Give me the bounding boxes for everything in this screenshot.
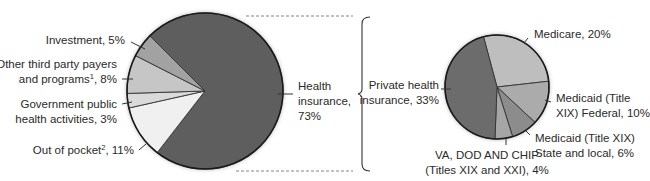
label-medicare: Medicare, 20% <box>534 27 611 42</box>
label-private-line1: Private health <box>360 78 439 93</box>
label-medicaid-state-line1: Medicaid (Title XIX) <box>535 131 635 146</box>
label-oop-text: Out of pocket <box>33 144 101 156</box>
label-other-value: , 8% <box>94 73 117 85</box>
label-out-of-pocket: Out of pocket2, 11% <box>33 143 134 158</box>
label-va-line1: VA, DOD AND CHIP <box>417 148 557 163</box>
label-other-third-party: Other third party payers and programs1, … <box>0 57 117 87</box>
label-oop-value: , 11% <box>105 144 134 156</box>
label-gov-line1: Government public <box>15 97 117 112</box>
label-health-insurance: Health insurance, 73% <box>298 79 351 124</box>
label-health-line2: insurance, <box>298 94 351 109</box>
label-health-line1: Health <box>298 79 351 94</box>
label-private-health-insurance: Private health insurance, 33% <box>360 78 439 108</box>
label-va-line2: (Titles XIX and XXI), 4% <box>417 163 557 178</box>
label-medicaid-fed-line2: XIX) Federal, 10% <box>556 106 650 121</box>
label-health-line3: 73% <box>298 109 351 124</box>
main-pie-chart <box>127 13 283 169</box>
label-investment: Investment, 5% <box>46 33 125 48</box>
label-medicaid-fed-line1: Medicaid (Title <box>556 91 650 106</box>
label-other-line1: Other third party payers <box>0 57 117 72</box>
label-gov-line2: health activities, 3% <box>15 112 117 127</box>
label-government-public-health: Government public health activities, 3% <box>15 97 117 127</box>
label-medicaid-federal: Medicaid (Title XIX) Federal, 10% <box>556 91 650 121</box>
label-other-line2: and programs1, 8% <box>0 72 117 87</box>
label-private-line2: insurance, 33% <box>360 93 439 108</box>
health-insurance-breakdown-pie <box>445 35 549 139</box>
label-va-dod-chip: VA, DOD AND CHIP (Titles XIX and XXI), 4… <box>417 148 557 178</box>
label-other-text: and programs <box>19 73 90 85</box>
